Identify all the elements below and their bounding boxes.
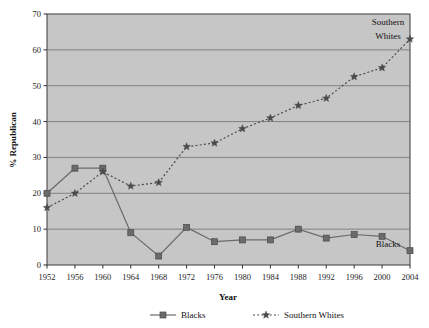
data-point-marker (128, 230, 134, 236)
x-tick-label: 2000 (374, 272, 391, 282)
x-tick-label: 1980 (234, 272, 251, 282)
x-tick-label: 1972 (178, 272, 195, 282)
x-tick-label: 1952 (39, 272, 56, 282)
legend-item-blacks[interactable]: Blacks (150, 310, 206, 320)
x-tick-label: 1964 (122, 272, 140, 282)
annotation-southern: Southern (372, 17, 405, 27)
annotation-blacks: Blacks (376, 239, 401, 249)
x-tick-label: 1960 (94, 272, 111, 282)
y-tick-label: 70 (33, 9, 42, 19)
x-tick-label: 1956 (66, 272, 83, 282)
republican-identification-line-chart: 010203040506070 195219561960196419681972… (0, 0, 429, 328)
y-axis-tick-labels: 010203040506070 (33, 9, 42, 270)
data-point-marker (262, 311, 270, 318)
data-point-marker (44, 190, 50, 196)
legend-label: Southern Whites (284, 310, 345, 320)
x-tick-label: 1976 (206, 272, 223, 282)
data-point-marker (407, 248, 413, 254)
annotation-whites: Whites (375, 31, 401, 41)
y-tick-label: 20 (33, 188, 42, 198)
data-point-marker (156, 253, 162, 259)
legend-item-southern-whites[interactable]: Southern Whites (253, 310, 345, 320)
x-tick-label: 1984 (262, 272, 280, 282)
x-tick-label: 2004 (402, 272, 420, 282)
y-tick-label: 50 (33, 81, 42, 91)
y-tick-label: 0 (37, 260, 41, 270)
data-point-marker (323, 235, 329, 241)
y-tick-label: 60 (33, 45, 42, 55)
x-tick-label: 1996 (346, 272, 363, 282)
data-point-marker (295, 226, 301, 232)
data-point-marker (160, 312, 166, 318)
chart-container: 010203040506070 195219561960196419681972… (0, 0, 429, 328)
data-point-marker (351, 232, 357, 238)
data-point-marker (212, 239, 218, 245)
plot-area-background (47, 14, 410, 265)
x-tick-label: 1968 (150, 272, 167, 282)
data-point-marker (184, 224, 190, 230)
data-point-marker (72, 165, 78, 171)
x-tick-label: 1992 (318, 272, 335, 282)
y-tick-label: 30 (33, 152, 42, 162)
x-axis-title: Year (219, 292, 237, 302)
y-tick-label: 10 (33, 224, 42, 234)
y-axis-title: % Republican (8, 112, 18, 167)
legend-label: Blacks (181, 310, 206, 320)
data-point-marker (267, 237, 273, 243)
x-tick-label: 1988 (290, 272, 307, 282)
y-tick-label: 40 (33, 117, 42, 127)
chart-legend: BlacksSouthern Whites (150, 310, 345, 320)
x-axis-tick-labels: 1952195619601964196819721976198019841988… (39, 265, 420, 282)
data-point-marker (239, 237, 245, 243)
